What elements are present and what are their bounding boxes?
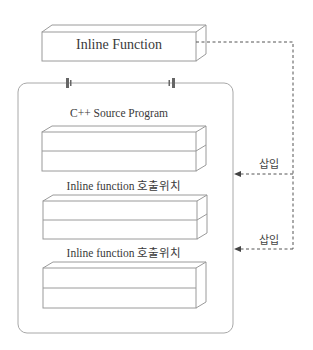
call-site-label-2: Inline function 호출위치 bbox=[42, 244, 206, 260]
arrow-left-icon bbox=[234, 171, 241, 177]
code-block-1 bbox=[42, 126, 206, 171]
insert-label-1: 삽입 bbox=[249, 155, 289, 171]
inline-function-label: Inline Function bbox=[42, 37, 196, 53]
call-site-label-1: Inline function 호출위치 bbox=[42, 177, 206, 193]
arrow-heads bbox=[234, 171, 241, 252]
source-program-container bbox=[18, 83, 233, 333]
code-block-2 bbox=[43, 195, 207, 239]
arrow-left-icon bbox=[234, 246, 241, 252]
insert-label-2: 삽입 bbox=[249, 231, 289, 247]
code-block-3 bbox=[43, 262, 206, 308]
source-program-title: C++ Source Program bbox=[42, 107, 196, 119]
insert-connector bbox=[196, 42, 293, 249]
